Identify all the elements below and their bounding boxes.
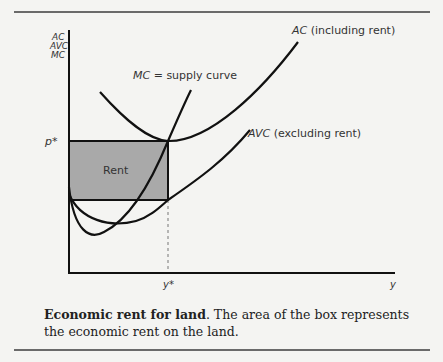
ac-curve-label: AC (including rent) — [291, 24, 395, 37]
figure-caption: Economic rent for land. The area of the … — [44, 306, 424, 340]
avc-curve-label: AVC (excluding rent) — [247, 127, 361, 140]
y-star-label: y* — [162, 279, 174, 290]
x-axis-label: y — [389, 279, 397, 290]
caption-title: Economic rent for land — [44, 307, 206, 322]
y-axis-label-mc: MC — [51, 50, 66, 60]
mc-curve-label: MC = supply curve — [133, 69, 237, 82]
p-star-label: p* — [44, 135, 58, 148]
rent-label: Rent — [103, 164, 129, 177]
bottom-rule — [14, 349, 430, 351]
